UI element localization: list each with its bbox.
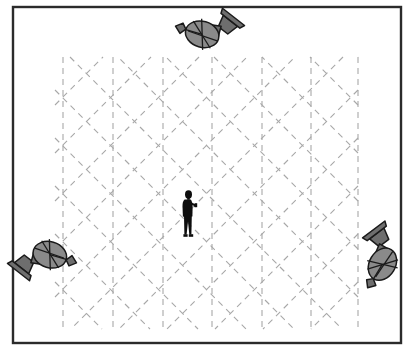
figure-canvas: .dish-face{fill:#8a8a8a;}.dish-body{fill… <box>0 0 417 355</box>
localization-figure: Indoor localization scene with three fix… <box>0 0 417 355</box>
